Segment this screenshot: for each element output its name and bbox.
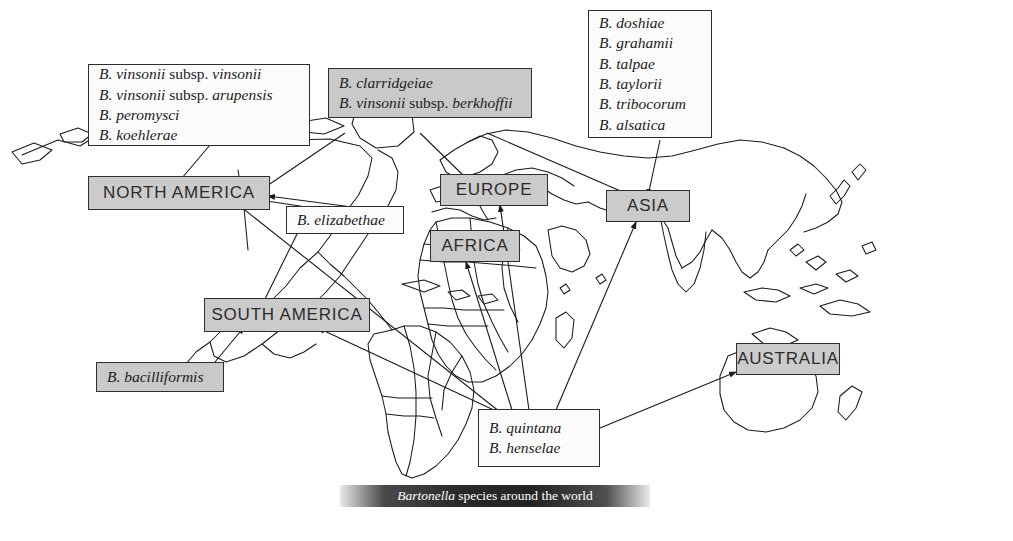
continent-label-europe[interactable]: EUROPE <box>440 174 548 206</box>
continent-label-text: SOUTH AMERICA <box>211 304 362 326</box>
arrow-ww-af <box>466 262 512 410</box>
species-genus: B. vinsonii <box>99 86 165 103</box>
species-line: B. grahamii <box>599 33 701 53</box>
species-epithet: berkhoffii <box>452 94 512 111</box>
species-line: B. tribocorum <box>599 94 701 114</box>
species-rank: subsp. <box>165 86 212 103</box>
species-box-bacilliformis[interactable]: B. bacilliformis <box>96 362 224 392</box>
continent-label-australia[interactable]: AUSTRALIA <box>736 343 840 375</box>
figure-caption-banner: Bartonella species around the world <box>340 485 650 507</box>
species-epithet: vinsonii <box>212 65 261 82</box>
species-line: B. koehlerae <box>99 125 299 145</box>
species-genus: B. vinsonii <box>339 94 405 111</box>
continent-label-north-america[interactable]: NORTH AMERICA <box>88 176 270 210</box>
continent-label-asia[interactable]: ASIA <box>606 190 690 222</box>
species-line: B. doshiae <box>599 13 701 33</box>
arrow-ww-asia <box>556 222 636 410</box>
species-line: B. vinsonii subsp. arupensis <box>99 85 299 105</box>
species-epithet: arupensis <box>212 86 272 103</box>
species-line: B. elizabethae <box>297 210 393 230</box>
species-line: B. clarridgeiae <box>339 73 521 93</box>
species-line: B. taylorii <box>599 74 701 94</box>
species-box-europe-north[interactable]: B. clarridgeiae B. vinsonii subsp. berkh… <box>328 68 532 118</box>
species-line: B. henselae <box>489 438 589 458</box>
species-rank: subsp. <box>165 65 212 82</box>
continent-label-text: AUSTRALIA <box>737 348 839 370</box>
species-box-north-america[interactable]: B. vinsonii subsp. vinsonii B. vinsonii … <box>88 64 310 146</box>
arrow-eliz-sa <box>262 228 300 305</box>
species-line: B. alsatica <box>599 115 701 135</box>
continent-label-africa[interactable]: AFRICA <box>430 230 520 262</box>
continent-label-south-america[interactable]: SOUTH AMERICA <box>204 298 370 332</box>
species-box-worldwide[interactable]: B. quintana B. henselae <box>478 409 600 467</box>
continent-label-text: AFRICA <box>441 235 508 257</box>
continent-label-text: EUROPE <box>456 179 533 201</box>
caption-genus: Bartonella <box>397 488 455 503</box>
species-box-elizabethae[interactable]: B. elizabethae <box>286 206 404 234</box>
species-line: B. vinsonii subsp. berkhoffii <box>339 93 521 113</box>
figure-caption-text: Bartonella species around the world <box>397 488 593 504</box>
species-box-asia[interactable]: B. doshiae B. grahamii B. talpae B. tayl… <box>588 10 712 138</box>
continent-label-text: ASIA <box>627 195 669 217</box>
arrow-ww-au <box>600 372 736 428</box>
continent-label-text: NORTH AMERICA <box>103 182 255 204</box>
species-line: B. vinsonii subsp. vinsonii <box>99 64 299 84</box>
caption-rest: species around the world <box>455 488 593 503</box>
species-rank: subsp. <box>405 94 452 111</box>
species-line: B. talpae <box>599 54 701 74</box>
figure-world-map: NORTH AMERICA SOUTH AMERICA EUROPE AFRIC… <box>0 0 1013 541</box>
species-line: B. bacilliformis <box>107 367 213 387</box>
arrow-asiasp-asia <box>648 140 660 196</box>
map-coastlines <box>12 104 876 478</box>
species-genus: B. vinsonii <box>99 65 165 82</box>
species-line: B. quintana <box>489 418 589 438</box>
species-line: B. peromysci <box>99 105 299 125</box>
